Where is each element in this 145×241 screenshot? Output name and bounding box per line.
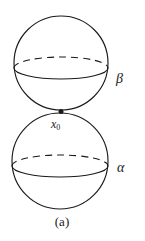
- label-beta: β: [116, 72, 123, 86]
- label-x-zero-subscript: 0: [56, 123, 60, 132]
- upper-sphere-outline: [14, 16, 108, 110]
- two-tangent-spheres-diagram: [0, 0, 145, 241]
- lower-equator-back-dashed: [12, 155, 108, 166]
- upper-equator-back-dashed: [14, 57, 108, 68]
- lower-equator-front-solid: [12, 166, 108, 177]
- figure-container: β α x0 (a): [0, 0, 145, 241]
- label-alpha: α: [117, 161, 124, 175]
- label-x-zero: x0: [51, 118, 60, 130]
- upper-equator-front-solid: [14, 68, 108, 79]
- figure-caption: (a): [0, 214, 124, 230]
- tangency-point-dot: [59, 109, 64, 114]
